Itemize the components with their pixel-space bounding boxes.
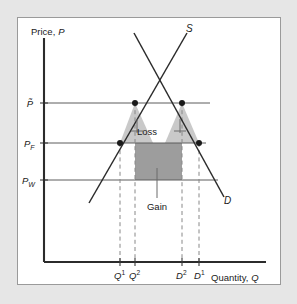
point-supply-at-pbar — [132, 100, 138, 106]
gain-label: Gain — [147, 201, 167, 212]
x-axis-title-symbol: Q — [251, 272, 259, 283]
x-axis-title-text: Quantity, — [211, 272, 248, 283]
price-label-p-f-sub: F — [30, 144, 35, 151]
price-label-p-w: PW — [22, 175, 36, 188]
demand-curve-label: D — [224, 195, 231, 206]
quantity-label-q1-sup: 1 — [121, 269, 125, 276]
price-label-p-w-sub: W — [28, 181, 36, 188]
y-axis-title-text: Price, — [31, 26, 55, 37]
loss-region-right — [165, 103, 199, 143]
gain-region — [135, 143, 182, 180]
diagram-canvas: Price,P Quantity,Q P̃ PF PW Q1 Q2 D2 D1 — [0, 0, 297, 304]
y-axis-title: Price,P — [31, 26, 65, 37]
supply-curve-label: S — [186, 23, 193, 34]
quantity-label-d2-sup: 2 — [183, 269, 187, 276]
y-axis-title-symbol: P — [58, 26, 65, 37]
quantity-label-d1-sup: 1 — [201, 269, 205, 276]
quantity-label-q1: Q1 — [114, 269, 125, 281]
point-supply-at-pf — [117, 140, 123, 146]
price-label-p-f: PF — [24, 138, 35, 151]
quantity-label-q2: Q2 — [129, 269, 140, 281]
quantity-label-d2: D2 — [176, 269, 187, 281]
x-axis-title: Quantity,Q — [211, 272, 259, 283]
figure-root: Price,P Quantity,Q P̃ PF PW Q1 Q2 D2 D1 — [0, 0, 297, 304]
loss-label: Loss — [137, 126, 157, 137]
price-label-p-bar-base: P — [27, 98, 34, 109]
point-demand-at-pbar — [179, 100, 185, 106]
quantity-label-d1: D1 — [194, 269, 205, 281]
quantity-label-q2-sup: 2 — [136, 269, 140, 276]
price-label-p-bar: P̃ — [27, 98, 34, 109]
point-demand-at-pf — [196, 140, 202, 146]
